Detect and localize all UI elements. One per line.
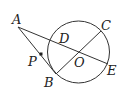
label-a: A [11, 12, 21, 27]
label-o: O [74, 55, 85, 70]
label-e: E [106, 63, 117, 78]
geometry-diagram: A B C D E O P [0, 0, 121, 92]
label-c: C [101, 18, 111, 33]
point-p-marker [40, 53, 43, 56]
label-d: D [58, 31, 70, 46]
label-b: B [43, 75, 54, 90]
segment-ab [18, 27, 56, 74]
label-p: P [27, 54, 37, 69]
